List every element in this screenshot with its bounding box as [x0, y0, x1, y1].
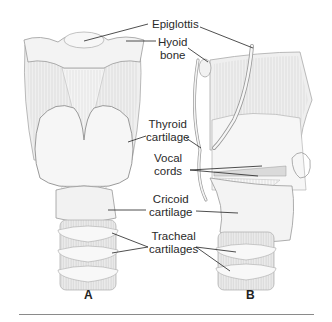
label-hyoid-bone: Hyoid bone	[158, 36, 187, 61]
label-hyoid-line2: bone	[158, 49, 187, 62]
label-vocal-line1: Vocal	[154, 152, 182, 165]
label-hyoid-line1: Hyoid	[158, 36, 187, 49]
label-tracheal-line2: cartilages	[149, 243, 198, 256]
label-thyroid-cartilage: Thyroid cartilage	[146, 118, 189, 143]
label-vocal-cords: Vocal cords	[154, 152, 182, 177]
larynx-diagram: Epiglottis Hyoid bone Thyroid cartilage …	[0, 0, 332, 322]
larynx-anterior-view	[24, 32, 144, 290]
bottom-rule	[19, 314, 314, 315]
label-cricoid-line1: Cricoid	[149, 193, 192, 206]
panel-label-a: A	[84, 288, 93, 302]
label-cricoid-cartilage: Cricoid cartilage	[149, 193, 192, 218]
label-tracheal-line1: Tracheal	[149, 230, 198, 243]
larynx-sagittal-view	[194, 46, 312, 290]
label-tracheal-cartilages: Tracheal cartilages	[149, 230, 198, 255]
label-vocal-line2: cords	[154, 165, 182, 178]
panel-label-b: B	[246, 288, 255, 302]
label-thyroid-line1: Thyroid	[146, 118, 189, 131]
label-cricoid-line2: cartilage	[149, 206, 192, 219]
label-thyroid-line2: cartilage	[146, 131, 189, 144]
label-epiglottis: Epiglottis	[152, 18, 199, 31]
